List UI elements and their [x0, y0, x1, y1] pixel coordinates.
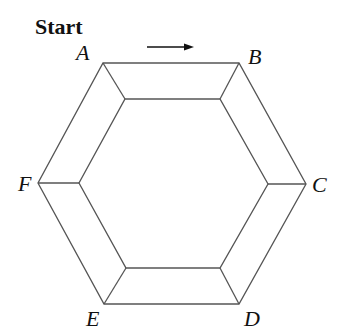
inner-hexagon — [79, 99, 268, 268]
hexagon-track-diagram: Start A B C D E F — [0, 0, 343, 336]
vertex-label-c: C — [312, 172, 327, 197]
vertex-label-e: E — [85, 306, 100, 331]
vertex-label-b: B — [248, 44, 261, 69]
vertex-label-f: F — [17, 171, 32, 196]
vertex-label-d: D — [243, 306, 260, 331]
direction-arrow-icon — [147, 44, 194, 51]
vertex-label-a: A — [74, 40, 90, 65]
start-title: Start — [35, 14, 83, 39]
